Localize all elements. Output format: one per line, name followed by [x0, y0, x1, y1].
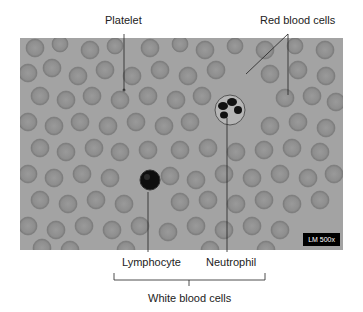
neutrophil-label: Neutrophil	[206, 256, 256, 268]
red-blood-cells-label: Red blood cells	[260, 14, 335, 26]
platelet-label: Platelet	[105, 14, 142, 26]
leader-lines	[0, 0, 363, 312]
white-blood-cells-label: White blood cells	[148, 292, 231, 304]
lymphocyte-label: Lymphocyte	[122, 256, 181, 268]
